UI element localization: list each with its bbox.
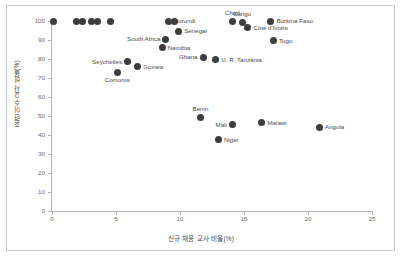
- data-point[interactable]: [79, 18, 86, 25]
- data-point[interactable]: [159, 44, 166, 51]
- x-axis-tick-label: 25: [357, 216, 387, 222]
- y-axis-tick: [48, 40, 51, 41]
- data-point[interactable]: [94, 18, 101, 25]
- y-axis-tick: [48, 154, 51, 155]
- x-axis-tick-label: 15: [229, 216, 259, 222]
- data-point[interactable]: [114, 69, 121, 76]
- plot-area: [52, 21, 372, 211]
- data-point-label: Guinea: [143, 64, 163, 70]
- data-point-label: Senegal: [184, 28, 207, 34]
- y-axis-tick-label: 100: [0, 18, 45, 24]
- y-axis-tick: [48, 59, 51, 60]
- y-axis-tick-label: 10: [0, 189, 45, 195]
- y-axis-tick-label: 20: [0, 170, 45, 176]
- data-point-label: Mali: [216, 121, 227, 127]
- y-axis-tick-label: 90: [0, 37, 45, 43]
- x-axis-tick-label: 20: [293, 216, 323, 222]
- y-axis-tick-label: 0: [0, 208, 45, 214]
- y-axis-tick-label: 30: [0, 151, 45, 157]
- data-point[interactable]: [316, 124, 323, 131]
- y-axis-title: 훈련 이수 교사 비율(%): [14, 60, 26, 127]
- data-point[interactable]: [229, 121, 236, 128]
- x-axis-tick-label: 10: [165, 216, 195, 222]
- data-point[interactable]: [197, 114, 204, 121]
- y-axis-tick: [48, 135, 51, 136]
- y-axis-tick: [48, 116, 51, 117]
- data-point-label: Côte d'Ivoire: [253, 25, 288, 31]
- data-point-label: Niger: [224, 137, 239, 143]
- data-point-label: Seychelles: [92, 59, 122, 65]
- y-axis-tick: [48, 211, 51, 212]
- data-point-label: U. R. Tanzania: [221, 57, 261, 63]
- y-axis-tick-label: 40: [0, 132, 45, 138]
- data-point-label: Namibia: [168, 44, 191, 50]
- data-point[interactable]: [200, 54, 207, 61]
- data-point-label: Ghana: [179, 54, 198, 60]
- x-axis-title: 신규 채용 교사 비율(%): [0, 233, 402, 243]
- y-axis-tick: [48, 192, 51, 193]
- data-point-label: Congo: [233, 11, 251, 17]
- scatter-plot-figure: 01020304050607080901000510152025 훈련 이수 교…: [0, 0, 402, 257]
- data-point-label: Malawi: [267, 120, 286, 126]
- data-point-label: Angola: [325, 124, 344, 130]
- x-axis-line: [51, 211, 373, 212]
- data-point-label: Togo: [279, 38, 292, 44]
- data-point[interactable]: [162, 36, 169, 43]
- data-point-label: Benin: [193, 106, 209, 112]
- data-point[interactable]: [171, 18, 178, 25]
- data-point-label: Comoros: [105, 77, 130, 83]
- data-point[interactable]: [107, 18, 114, 25]
- y-axis-tick: [48, 97, 51, 98]
- x-axis-tick-label: 5: [101, 216, 131, 222]
- data-point-label: South Africa: [127, 36, 160, 42]
- y-axis-tick: [48, 78, 51, 79]
- y-axis-tick: [48, 173, 51, 174]
- x-axis-tick-label: 0: [37, 216, 67, 222]
- data-point[interactable]: [50, 18, 57, 25]
